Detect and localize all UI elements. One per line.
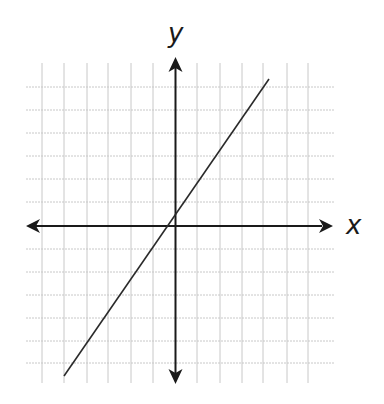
y-axis-label: y [168,20,183,46]
grid-lines [26,63,334,383]
x-axis-label: x [346,212,361,238]
plotted-line [64,79,269,376]
coordinate-plane [0,0,384,404]
